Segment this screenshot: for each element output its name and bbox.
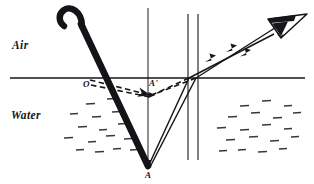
label-point-a-prime: A'	[149, 79, 158, 88]
apparent-stick	[90, 80, 150, 97]
virtual-rays	[152, 78, 196, 95]
water-texture	[64, 99, 301, 152]
ray-arrowheads	[205, 44, 251, 63]
upper-ray-arrow	[226, 44, 237, 53]
real-rays	[148, 26, 278, 167]
lower-ray-arrow	[205, 54, 216, 63]
label-point-o: O	[83, 80, 90, 89]
label-water: Water	[11, 110, 41, 122]
apparent-point-marker	[149, 92, 156, 98]
diagram-canvas	[0, 0, 314, 184]
refraction-diagram: Air Water O A' A	[0, 0, 314, 184]
label-air: Air	[12, 40, 29, 52]
label-point-a: A	[145, 171, 151, 180]
